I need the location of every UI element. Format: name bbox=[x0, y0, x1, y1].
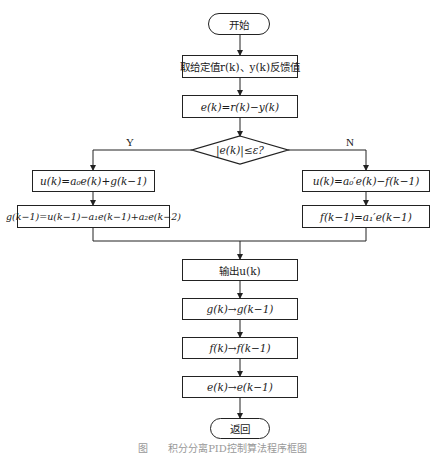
figure-caption: 图 积分分离PID控制算法程序框图 bbox=[0, 440, 445, 455]
no-control-output-step: u(k)=a₀′e(k)−f(k−1) bbox=[302, 170, 430, 192]
error-calc-step: e(k)=r(k)−y(k) bbox=[182, 95, 298, 118]
yes-control-output-step: u(k)=a₀e(k)+g(k−1) bbox=[32, 170, 155, 192]
no-label: N bbox=[346, 136, 354, 148]
return-terminal: 返回 bbox=[210, 418, 270, 439]
yes-g-update-step: g(k−1)=u(k−1)−a₁e(k−1)+a₂e(k−2) bbox=[17, 205, 170, 228]
decision-threshold: |e(k)|≤ε? bbox=[192, 136, 288, 164]
yes-label: Y bbox=[126, 136, 134, 148]
shift-g-step: g(k)→g(k−1) bbox=[182, 298, 298, 320]
shift-e-step: e(k)→e(k−1) bbox=[182, 376, 298, 398]
shift-f-step: f(k)→f(k−1) bbox=[182, 337, 298, 359]
start-terminal: 开始 bbox=[208, 13, 270, 35]
output-step: 输出u(k) bbox=[182, 259, 298, 281]
read-values-step: 取给定值r(k)、y(k)反馈值 bbox=[182, 55, 298, 78]
no-f-update-step: f(k−1)=a₁′e(k−1) bbox=[302, 205, 430, 228]
